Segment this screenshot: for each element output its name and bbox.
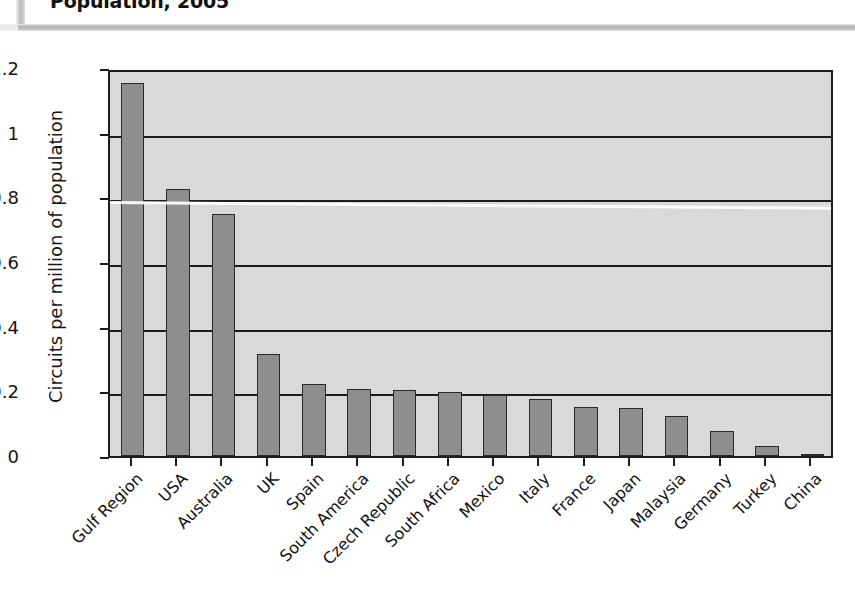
bar [801, 454, 825, 456]
plot-area [108, 70, 833, 458]
bar [393, 390, 417, 456]
bar [710, 431, 734, 456]
bar [302, 384, 326, 456]
page-title: Population, 2005 [50, 0, 229, 12]
x-tick-mark [356, 458, 358, 466]
gridline [110, 136, 831, 138]
x-tick-label-text: UK [253, 469, 282, 498]
x-tick-mark [130, 458, 132, 466]
x-tick-mark [673, 458, 675, 466]
x-tick-label-text: Italy [516, 469, 554, 507]
y-axis-title: Circuits per million of population [45, 57, 66, 457]
x-tick-mark [809, 458, 811, 466]
y-tick-label: 0.8 [0, 187, 19, 208]
bar [347, 389, 371, 456]
y-tick-label: 0 [0, 446, 19, 467]
y-tick-label: 0.6 [0, 252, 19, 273]
bar [212, 214, 236, 457]
y-tick-label: 0.2 [0, 381, 19, 402]
x-tick-mark [764, 458, 766, 466]
bar [755, 446, 779, 456]
x-tick-mark [311, 458, 313, 466]
bar [166, 189, 190, 456]
y-tick-label: 0.4 [0, 317, 19, 338]
x-tick-mark [447, 458, 449, 466]
bar [619, 408, 643, 457]
x-tick-mark [220, 458, 222, 466]
y-tick-label: 1.2 [0, 58, 19, 79]
header-divider-cap [0, 24, 18, 31]
y-tick-label: 1 [0, 123, 19, 144]
x-tick-mark [719, 458, 721, 466]
x-tick-mark [492, 458, 494, 466]
bar [529, 399, 553, 456]
x-tick-mark [402, 458, 404, 466]
x-tick-mark [583, 458, 585, 466]
bar [665, 416, 689, 456]
x-tick-mark [628, 458, 630, 466]
x-tick-mark [537, 458, 539, 466]
bar [574, 407, 598, 456]
header-divider [0, 24, 855, 31]
bar-chart-figure: Circuits per million of population 00.20… [0, 31, 855, 596]
bar [121, 83, 145, 456]
bar [257, 354, 281, 456]
x-tick-label-text: USA [155, 469, 192, 506]
x-tick-mark [266, 458, 268, 466]
x-tick-mark [175, 458, 177, 466]
bar [438, 392, 462, 456]
x-tick-label-text: China [780, 469, 826, 515]
bar [483, 395, 507, 456]
